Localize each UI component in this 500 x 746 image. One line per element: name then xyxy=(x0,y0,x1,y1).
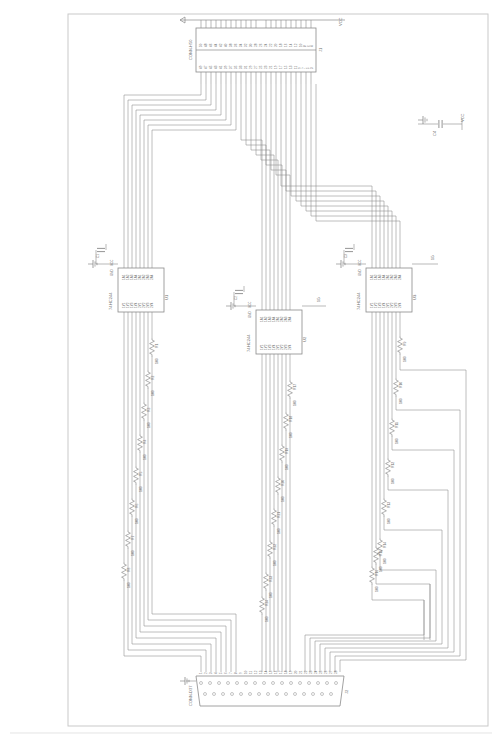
resistor-r12[interactable]: R12 100 xyxy=(386,322,448,640)
resistor-r22[interactable]: R22 100 xyxy=(268,364,277,645)
resistor-r3-value: 100 xyxy=(147,422,151,428)
resistor-r21-value: 100 xyxy=(277,528,281,534)
svg-text:22: 22 xyxy=(304,670,308,674)
resistor-r4[interactable]: R4 100 xyxy=(138,322,221,645)
resistor-r17-ref: R17 xyxy=(293,384,297,390)
resistor-r20-value: 100 xyxy=(281,496,285,502)
svg-text:25: 25 xyxy=(259,65,263,69)
ic-u2[interactable]: 74HC244 U2 1A1 1A2 1A3 1A4 2A1 2A2 2A3 2… xyxy=(226,286,326,364)
resistor-r19[interactable]: R19 100 xyxy=(280,364,289,645)
connector-header-top[interactable]: CONN-H50 J1 VCC 50 48 46 44 42 40 38 36 … xyxy=(180,17,345,84)
resistor-r2[interactable]: R2 100 xyxy=(146,322,231,645)
capacitor-c4[interactable]: C4 VCC xyxy=(418,113,465,136)
svg-text:16: 16 xyxy=(274,670,278,674)
resistor-r6-value: 100 xyxy=(135,518,139,524)
svg-text:3: 3 xyxy=(209,672,213,674)
resistor-r8-ref: R8 xyxy=(127,568,131,572)
svg-text:27: 27 xyxy=(254,65,258,69)
resistor-bank-center: R17 100 R18 100 R19 100 R20 xyxy=(260,364,297,645)
resistor-r5-ref: R5 xyxy=(139,472,143,476)
svg-text:48: 48 xyxy=(204,43,208,47)
ic-u1-part: 74HC244 xyxy=(108,292,113,310)
resistor-r11[interactable]: R11 100 xyxy=(390,322,454,640)
ic-u3-gnd-label: GND xyxy=(358,269,362,277)
ic-u2-vcc-label: VCC xyxy=(248,301,252,308)
svg-text:5: 5 xyxy=(219,672,223,674)
capacitor-c4-net: VCC xyxy=(460,113,465,122)
svg-text:2Y4: 2Y4 xyxy=(398,302,402,308)
svg-text:15: 15 xyxy=(284,65,288,69)
resistor-r17[interactable]: R17 100 xyxy=(288,364,297,645)
resistor-r20[interactable]: R20 100 xyxy=(276,364,285,645)
svg-text:17: 17 xyxy=(279,65,283,69)
ic-u1-vcc-label: VCC xyxy=(110,259,114,266)
resistor-r9[interactable]: R9 100 xyxy=(398,322,466,640)
svg-text:13: 13 xyxy=(289,65,293,69)
resistor-r10[interactable]: R10 100 xyxy=(394,322,460,640)
resistor-r15[interactable]: R15 100 xyxy=(374,322,430,640)
svg-text:12: 12 xyxy=(254,670,258,674)
ic-u2-ref: U2 xyxy=(302,336,307,342)
svg-text:27: 27 xyxy=(329,670,333,674)
resistor-r23-ref: R23 xyxy=(269,576,273,582)
resistor-r2-value: 100 xyxy=(151,390,155,396)
resistor-r21-ref: R21 xyxy=(277,512,281,518)
resistor-r7-ref: R7 xyxy=(131,536,135,540)
resistor-r24-value: 100 xyxy=(265,616,269,622)
resistor-r9-value: 100 xyxy=(403,356,407,362)
resistor-r5[interactable]: R5 100 xyxy=(134,322,216,645)
ic-u2-decoupling-ref: C2 xyxy=(234,296,238,300)
resistor-r24[interactable]: R24 100 xyxy=(260,364,269,645)
svg-text:13: 13 xyxy=(259,670,263,674)
svg-text:9: 9 xyxy=(239,672,243,674)
connector-header-ref: J1 xyxy=(318,47,323,52)
svg-text:20: 20 xyxy=(294,670,298,674)
resistor-r14[interactable]: R14 100 xyxy=(378,322,436,640)
svg-text:17: 17 xyxy=(279,670,283,674)
ic-u3[interactable]: 74HC244 U3 1A1 1A2 1A3 1A4 2A1 2A2 2A3 2… xyxy=(336,244,438,322)
svg-text:8: 8 xyxy=(234,672,238,674)
resistor-r15-ref: R15 xyxy=(379,550,383,556)
resistor-r21[interactable]: R21 100 xyxy=(272,364,281,645)
resistor-r23-value: 100 xyxy=(269,592,273,598)
resistor-r1[interactable]: R1 100 xyxy=(150,322,236,645)
resistor-r7[interactable]: R7 100 xyxy=(126,322,206,656)
connector-dsub-bottom[interactable]: 1 2 3 4 5 6 7 8 9 10 11 12 13 14 15 16 1… xyxy=(180,670,349,706)
resistor-r10-ref: R10 xyxy=(399,382,403,388)
resistor-r18-ref: R18 xyxy=(289,416,293,422)
svg-text:47: 47 xyxy=(204,65,208,69)
svg-text:2Y4: 2Y4 xyxy=(288,344,292,350)
resistor-r18[interactable]: R18 100 xyxy=(284,364,293,645)
resistor-r1-ref: R1 xyxy=(155,344,159,348)
resistor-r4-ref: R4 xyxy=(143,440,147,444)
svg-text:21: 21 xyxy=(269,65,273,69)
svg-text:26: 26 xyxy=(324,670,328,674)
connector-header-label: CONN-H50 xyxy=(188,39,193,60)
resistor-r8-value: 100 xyxy=(127,582,131,588)
svg-text:40: 40 xyxy=(224,43,228,47)
svg-text:50: 50 xyxy=(199,43,203,47)
svg-text:14: 14 xyxy=(264,670,268,674)
svg-text:34: 34 xyxy=(239,43,243,47)
resistor-r16[interactable]: R16 100 xyxy=(370,322,424,640)
resistor-r19-ref: R19 xyxy=(285,448,289,454)
resistor-r1-value: 100 xyxy=(155,358,159,364)
svg-text:18: 18 xyxy=(279,43,283,47)
ic-u3-decoupling-ref: C3 xyxy=(344,254,348,258)
ic-u2-part: 74HC244 xyxy=(246,334,251,352)
resistor-r8[interactable]: R8 100 xyxy=(122,322,201,662)
ic-u1[interactable]: 74HC244 U1 1A1 1A2 1A3 1A4 2A1 2A2 2A3 2… xyxy=(88,244,169,322)
svg-text:43: 43 xyxy=(214,65,218,69)
svg-text:7: 7 xyxy=(229,672,233,674)
capacitor-c4-ref: C4 xyxy=(432,130,437,136)
resistor-r22-ref: R22 xyxy=(273,544,277,550)
ic-u3-part: 74HC244 xyxy=(356,292,361,310)
svg-text:31: 31 xyxy=(244,65,248,69)
svg-text:42: 42 xyxy=(219,43,223,47)
svg-text:20: 20 xyxy=(274,43,278,47)
resistor-r6[interactable]: R6 100 xyxy=(130,322,211,650)
bus-center-to-dsub xyxy=(262,645,290,672)
resistor-r3[interactable]: R3 100 xyxy=(142,322,226,645)
svg-text:23: 23 xyxy=(309,670,313,674)
svg-text:4: 4 xyxy=(310,45,314,47)
